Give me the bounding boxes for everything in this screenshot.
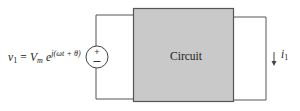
- formula-equals: =: [17, 51, 30, 63]
- right-wire: [234, 17, 266, 100]
- formula-amplitude-sub: m: [37, 56, 43, 65]
- left-bottom-wire: [96, 68, 133, 99]
- voltage-source-icon: +: [86, 46, 108, 68]
- plus-sign: +: [94, 47, 99, 57]
- current-var-sub: 1: [284, 53, 288, 62]
- current-label: i1: [281, 48, 288, 62]
- source-voltage-formula: v1=Vm ej(ωt + θ): [8, 49, 81, 65]
- current-arrow-icon: [272, 52, 277, 66]
- left-top-wire: [96, 15, 133, 46]
- circuit-block-label: Circuit: [162, 50, 210, 62]
- formula-exponent: j(ωt + θ): [51, 49, 81, 58]
- formula-amplitude: V: [30, 51, 37, 63]
